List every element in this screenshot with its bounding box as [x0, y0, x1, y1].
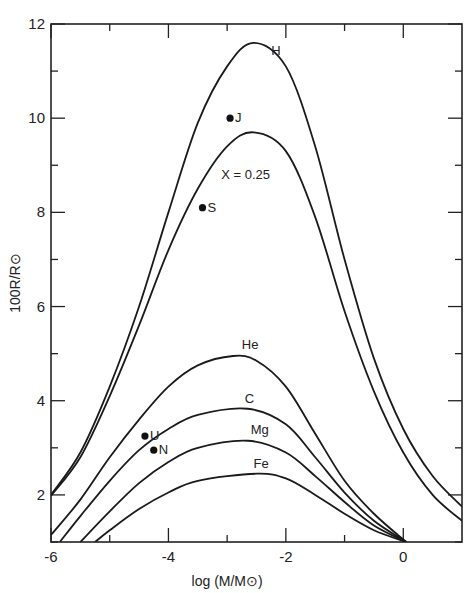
point-label-s: S [207, 200, 216, 215]
x-tick-label: -6 [44, 548, 57, 565]
y-tick-label: 10 [28, 109, 45, 126]
point-n [150, 447, 157, 454]
curve-label-fe: Fe [254, 456, 269, 471]
point-label-n: N [159, 442, 168, 457]
point-s [199, 204, 206, 211]
x-tick-label: -4 [162, 548, 175, 565]
curve-he [51, 356, 406, 542]
curve-label-mg: Mg [251, 422, 269, 437]
x-axis-title: log (M/M⊙) [192, 573, 263, 589]
curve-label-he: He [242, 337, 259, 352]
curve-mg [80, 441, 406, 542]
curve-label-c: C [245, 391, 254, 406]
curve-h [51, 43, 462, 507]
x-tick-label: -2 [279, 548, 292, 565]
mass-radius-chart: -6-4-2024681012log (M/M⊙)100R/R⊙ HX = 0.… [0, 0, 474, 593]
y-tick-label: 12 [28, 15, 45, 32]
y-tick-label: 4 [37, 392, 45, 409]
y-tick-label: 6 [37, 298, 45, 315]
point-label-u: U [150, 428, 159, 443]
y-tick-label: 2 [37, 486, 45, 503]
y-axis-title: 100R/R⊙ [7, 253, 23, 312]
axis-ticks: -6-4-2024681012log (M/M⊙)100R/R⊙ [7, 15, 462, 589]
point-u [141, 432, 148, 439]
x-tick-label: 0 [399, 548, 407, 565]
point-label-j: J [235, 110, 242, 125]
curve-label-x-0-25: X = 0.25 [221, 167, 270, 182]
y-tick-label: 8 [37, 203, 45, 220]
point-j [226, 115, 233, 122]
labels: HX = 0.25HeCMgFeJSUN [150, 43, 281, 471]
curve-label-h: H [271, 43, 280, 58]
